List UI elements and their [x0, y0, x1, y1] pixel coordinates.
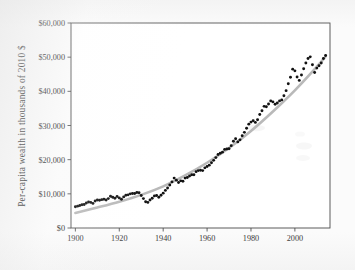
data-point [228, 147, 231, 150]
y-tick-label: $0 [57, 224, 65, 233]
data-point [208, 164, 211, 167]
data-point [282, 94, 285, 97]
data-point [322, 57, 325, 60]
data-point [236, 140, 239, 143]
y-tick-label: $50,000 [38, 53, 65, 62]
data-point [267, 103, 270, 106]
data-point [181, 180, 184, 183]
x-tick-label: 1960 [199, 234, 215, 243]
data-point [296, 76, 299, 79]
data-point [230, 144, 233, 147]
data-point [258, 113, 261, 116]
data-point [212, 159, 215, 162]
data-point [214, 156, 217, 159]
data-point [192, 173, 195, 176]
data-point [175, 179, 178, 182]
data-point [309, 55, 312, 58]
data-point [157, 196, 160, 199]
data-point [304, 62, 307, 65]
data-point [311, 63, 314, 66]
x-tick-label: 1980 [243, 234, 259, 243]
data-point [138, 191, 141, 194]
data-point [280, 98, 283, 101]
x-tick-label: 2000 [287, 234, 303, 243]
data-point [271, 100, 274, 103]
data-point [247, 123, 250, 126]
data-point [151, 197, 154, 200]
data-point [171, 180, 174, 183]
x-tick-label: 1920 [111, 234, 127, 243]
data-point [232, 140, 235, 143]
per-capita-wealth-chart: $0$10,000$20,000$30,000$40,000$50,000$60… [0, 0, 355, 270]
data-point [146, 201, 149, 204]
y-axis-tick-labels: $0$10,000$20,000$30,000$40,000$50,000$60… [38, 19, 65, 233]
data-point [324, 54, 327, 57]
data-point [315, 67, 318, 70]
y-tick-label: $10,000 [38, 190, 65, 199]
data-point [162, 192, 165, 195]
data-point [160, 194, 163, 197]
y-axis-tick-marks [68, 23, 72, 228]
data-point [243, 131, 246, 134]
data-point [107, 197, 110, 200]
data-point [142, 197, 145, 200]
data-point [256, 118, 259, 121]
data-point [164, 189, 167, 192]
data-point [221, 151, 224, 154]
data-point [241, 134, 244, 137]
data-point [300, 73, 303, 76]
y-tick-label: $40,000 [38, 87, 65, 96]
data-point [234, 137, 237, 140]
data-point [173, 177, 176, 180]
data-point [265, 105, 268, 108]
x-axis-tick-labels: 190019201940196019802000 [67, 234, 303, 243]
data-point [302, 67, 305, 70]
y-tick-label: $60,000 [38, 19, 65, 28]
data-point [298, 79, 301, 82]
data-point [318, 64, 321, 67]
data-point [239, 138, 242, 141]
data-point [276, 102, 279, 105]
data-point [293, 69, 296, 72]
x-tick-label: 1900 [67, 234, 83, 243]
data-point [210, 161, 213, 164]
data-point [168, 184, 171, 187]
data-point [245, 127, 248, 130]
x-tick-label: 1940 [155, 234, 171, 243]
data-point [285, 89, 288, 92]
y-axis-title: Per-capita wealth in thousands of 2010 $ [17, 45, 27, 207]
x-axis-tick-marks [75, 228, 294, 232]
data-point [261, 109, 264, 112]
data-point [92, 202, 95, 205]
data-point [289, 76, 292, 79]
chart-figure: $0$10,000$20,000$30,000$40,000$50,000$60… [0, 0, 355, 270]
data-point [313, 71, 316, 74]
y-tick-label: $30,000 [38, 122, 65, 131]
data-point [120, 198, 123, 201]
data-point [201, 169, 204, 172]
data-point [140, 194, 143, 197]
data-point [254, 121, 257, 124]
data-point [166, 187, 169, 190]
data-point [287, 82, 290, 85]
data-point [320, 62, 323, 65]
y-tick-label: $20,000 [38, 156, 65, 165]
